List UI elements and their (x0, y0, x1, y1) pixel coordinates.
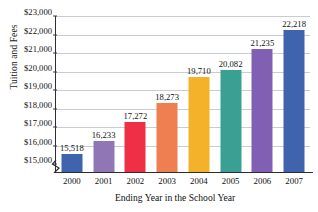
y-axis-tick-label: $15,000 (8, 155, 52, 165)
bar-value-label: 16,233 (92, 130, 116, 140)
y-axis-tick-mark (53, 127, 57, 128)
bar[interactable] (220, 70, 241, 172)
y-axis-tick-labels: $15,000$16,000$17,000$18,000$19,000$20,0… (8, 12, 52, 164)
bar[interactable] (157, 103, 178, 172)
bar[interactable] (125, 122, 146, 172)
y-axis-tick-label: $19,000 (8, 81, 52, 91)
y-axis-tick-mark (53, 71, 57, 72)
tuition-and-fees-bar-chart: Tuition and Fees $15,000$16,000$17,000$1… (0, 0, 318, 212)
bar[interactable] (93, 141, 114, 172)
x-axis-tick-label: 2007 (285, 176, 303, 186)
bar-value-label: 19,710 (187, 66, 211, 76)
x-axis-tick-label: 2004 (190, 176, 208, 186)
bar[interactable] (61, 154, 82, 172)
bar-group[interactable]: 19,710 (183, 16, 215, 172)
bar-value-label: 18,273 (155, 92, 179, 102)
y-axis-tick-mark (53, 145, 57, 146)
bar-value-label: 17,272 (124, 111, 148, 121)
y-axis-tick-label: $18,000 (8, 100, 52, 110)
y-axis-tick-label: $21,000 (8, 44, 52, 54)
y-axis-tick-mark (53, 90, 57, 91)
bar-value-label: 15,518 (60, 143, 84, 153)
bar-group[interactable]: 15,518 (56, 16, 88, 172)
x-axis-tick-label: 2002 (127, 176, 145, 186)
x-axis-line (55, 172, 313, 173)
x-axis-tick-label: 2005 (222, 176, 240, 186)
y-axis-tick-mark (53, 16, 57, 17)
y-axis-tick-mark (53, 108, 57, 109)
y-axis-tick-mark (53, 164, 57, 165)
x-axis-tick-label: 2003 (158, 176, 176, 186)
bar[interactable] (188, 77, 209, 172)
x-axis-tick-label: 2001 (95, 176, 113, 186)
y-axis-tick-label: $17,000 (8, 118, 52, 128)
bar-group[interactable]: 20,082 (215, 16, 247, 172)
bar-group[interactable]: 18,273 (151, 16, 183, 172)
bar-group[interactable]: 21,235 (247, 16, 279, 172)
y-axis-tick-label: $16,000 (8, 137, 52, 147)
y-axis-tick-mark (53, 53, 57, 54)
bar-group[interactable]: 17,272 (120, 16, 152, 172)
bars-layer: 15,51816,23317,27218,27319,71020,08221,2… (56, 16, 310, 172)
y-axis-tick-label: $20,000 (8, 63, 52, 73)
bar-value-label: 22,218 (282, 19, 306, 29)
bar[interactable] (284, 30, 305, 172)
x-axis-title: Ending Year in the School Year (40, 192, 310, 203)
bar-value-label: 21,235 (251, 38, 275, 48)
x-axis-tick-label: 2000 (63, 176, 81, 186)
y-axis-tick-mark (53, 34, 57, 35)
x-axis-tick-labels: 20002001200220032004200520062007 (56, 176, 310, 190)
bar-group[interactable]: 22,218 (278, 16, 310, 172)
bar[interactable] (252, 49, 273, 172)
x-axis-tick-label: 2006 (254, 176, 272, 186)
y-axis-tick-label: $22,000 (8, 26, 52, 36)
bar-value-label: 20,082 (219, 59, 243, 69)
y-axis-tick-label: $23,000 (8, 7, 52, 17)
bar-group[interactable]: 16,233 (88, 16, 120, 172)
